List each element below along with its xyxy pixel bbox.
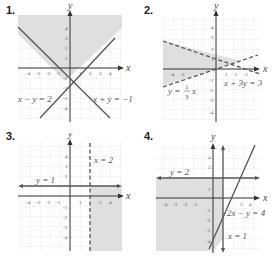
equation-label: x + y = −1 (92, 94, 133, 104)
equation-label: x = 1 (227, 231, 247, 241)
svg-text:x: x (191, 86, 196, 96)
y-axis-label: y (67, 133, 73, 139)
equation-label: y = (167, 86, 180, 96)
equation-label: 2x − y = 4 (227, 208, 266, 218)
graph-4-plot: x y -4 -3 -2 -1 3 4 1 3 4 -1 -2 -3 -4 y … (136, 133, 273, 266)
graph-1-plot: x y -4 -3 -2 -1 1 2 3 4 1 2 3 4 -1 -2 -3… (0, 0, 136, 133)
graph-2-plot: x y -4 -3 1 2 3 1 2 3 4 -1 -2 -3 -4 y = … (136, 0, 273, 133)
svg-text:-3: -3 (36, 71, 41, 76)
svg-text:-3: -3 (173, 202, 178, 207)
svg-text:-3: -3 (63, 96, 68, 101)
svg-text:-1: -1 (63, 76, 68, 81)
svg-text:-4: -4 (206, 239, 211, 244)
svg-text:-3: -3 (36, 200, 41, 205)
svg-text:-3: -3 (180, 72, 185, 77)
equation-label: y = 2 (169, 167, 190, 177)
equation-label: x − y = 2 (17, 94, 52, 104)
graph-3-plot: x y -4 -3 -2 -1 1 3 4 2 3 4 -1 -2 -3 -4 … (0, 133, 136, 266)
svg-text:3: 3 (185, 93, 189, 101)
x-axis-label: x (262, 192, 268, 203)
svg-text:-4: -4 (163, 202, 168, 207)
x-axis-label: x (125, 190, 131, 201)
graph-panel-1: 1. x y -4 -3 -2 -1 1 2 3 4 1 2 (0, 0, 136, 133)
y-axis-label: y (213, 0, 219, 11)
svg-text:-4: -4 (63, 235, 68, 240)
svg-text:-2: -2 (206, 218, 211, 223)
svg-text:-2: -2 (63, 86, 68, 91)
svg-text:-2: -2 (183, 202, 188, 207)
y-axis-label: y (67, 0, 73, 11)
svg-text:-3: -3 (206, 228, 211, 233)
x-axis-label: x (125, 62, 131, 73)
svg-text:-2: -2 (209, 88, 214, 93)
graph-panel-4: 4. x y -4 -3 -2 -1 3 4 1 (136, 133, 272, 266)
svg-text:-1: -1 (206, 208, 211, 213)
svg-text:-1: -1 (209, 78, 214, 83)
svg-text:-4: -4 (63, 106, 68, 111)
svg-text:-4: -4 (26, 71, 31, 76)
svg-text:-2: -2 (46, 200, 51, 205)
equation-label: x = 2 (93, 155, 114, 165)
equation-label: x + 3y = 3 (223, 78, 263, 88)
svg-text:-3: -3 (63, 225, 68, 230)
svg-text:-1: -1 (56, 71, 61, 76)
graph-panel-2: 2. x y -4 -3 1 2 3 1 2 3 4 -1 (136, 0, 272, 133)
svg-text:-2: -2 (63, 215, 68, 220)
svg-text:-2: -2 (46, 71, 51, 76)
svg-text:-1: -1 (56, 200, 61, 205)
svg-text:-1: -1 (193, 202, 198, 207)
y-axis-label: y (210, 133, 216, 142)
svg-text:-4: -4 (26, 200, 31, 205)
svg-text:-4: -4 (209, 110, 214, 115)
svg-text:-1: -1 (63, 205, 68, 210)
svg-text:1: 1 (185, 83, 189, 91)
equation-label: y = 1 (35, 175, 55, 185)
graph-panel-3: 3. x y -4 -3 -2 -1 1 3 4 2 3 (0, 133, 136, 266)
svg-text:-4: -4 (170, 72, 175, 77)
svg-text:-3: -3 (209, 98, 214, 103)
x-axis-label: x (262, 63, 268, 74)
